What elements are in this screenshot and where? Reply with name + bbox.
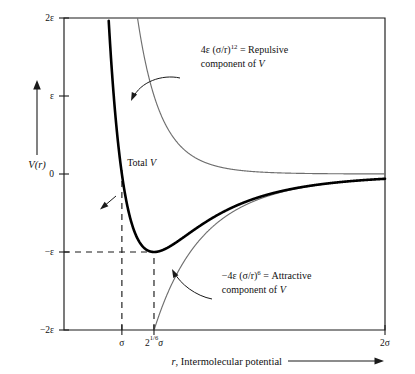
y-axis-label: V(r) <box>28 159 46 171</box>
leader-attractive <box>174 272 212 299</box>
curve-total-v <box>109 21 385 252</box>
curve-annotations: 4ε (σ/r)12 = Repulsivecomponent of V−4ε … <box>127 43 312 295</box>
lennard-jones-potential-chart: 2εε0−ε−2ε σ21/6σ2σ V(r) r, Intermolecula… <box>0 0 415 374</box>
x-tick-label-0: σ <box>119 338 124 348</box>
x-axis-direction-arrow <box>288 357 384 364</box>
leader-repulsive-head <box>131 92 137 101</box>
leader-repulsive <box>133 77 180 98</box>
guide-dashed-lines <box>64 170 154 330</box>
annotation-leader-lines <box>100 77 212 299</box>
y-tick-label-4: −2ε <box>40 325 54 335</box>
x-axis-ticks: σ21/6σ2σ <box>119 325 390 348</box>
y-tick-label-0: 2ε <box>45 13 54 23</box>
x-axis-label: r, Intermolecular potential <box>171 356 282 367</box>
annotation-total: Total V <box>127 157 158 168</box>
annotation-attractive: −4ε (σ/r)6 = Attractive <box>222 269 312 282</box>
y-tick-label-1: ε <box>50 91 54 101</box>
y-axis-ticks: 2εε0−ε−2ε <box>40 13 69 335</box>
chart-canvas: 2εε0−ε−2ε σ21/6σ2σ V(r) r, Intermolecula… <box>0 0 415 374</box>
curve-attractive-component-of-v <box>154 179 385 330</box>
y-tick-label-3: −ε <box>45 247 54 257</box>
annotation-attractive-line2: component of V <box>222 284 288 295</box>
y-axis-direction-arrow <box>33 80 41 155</box>
curve-repulsive-component-of-v <box>138 18 385 173</box>
x-tick-label-2: 2σ <box>380 338 390 348</box>
annotation-repulsive-line2: component of V <box>201 58 267 69</box>
y-tick-label-2: 0 <box>49 169 54 179</box>
annotation-repulsive: 4ε (σ/r)12 = Repulsive <box>201 43 289 56</box>
x-tick-label-1: 21/6σ <box>145 333 163 348</box>
